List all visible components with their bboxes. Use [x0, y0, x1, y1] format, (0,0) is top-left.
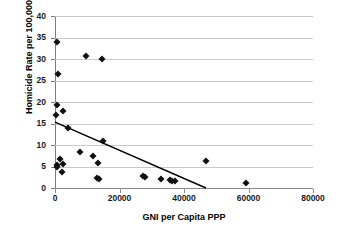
- y-tick-label-0: 0: [0, 184, 46, 193]
- y-tick-label-35: 35: [0, 33, 46, 42]
- plot-area: [55, 16, 313, 188]
- y-tick-label-40: 40: [0, 12, 46, 21]
- y-tick-label-20: 20: [0, 98, 46, 107]
- x-tick-label-60000: 60000: [219, 194, 279, 203]
- x-tick-mark-40000: [184, 189, 185, 193]
- x-axis-title: GNI per Capita PPP: [55, 212, 313, 222]
- x-tick-mark-60000: [249, 189, 250, 193]
- x-tick-label-0: 0: [25, 194, 85, 203]
- y-tick-label-30: 30: [0, 55, 46, 64]
- y-tick-label-15: 15: [0, 119, 46, 128]
- x-tick-mark-20000: [120, 189, 121, 193]
- y-tick-label-10: 10: [0, 141, 46, 150]
- gridline-y-0: [55, 188, 313, 189]
- x-tick-mark-80000: [313, 189, 314, 193]
- y-tick-label-25: 25: [0, 76, 46, 85]
- x-tick-label-40000: 40000: [154, 194, 214, 203]
- x-tick-label-20000: 20000: [90, 194, 150, 203]
- x-tick-mark-0: [55, 189, 56, 193]
- y-tick-label-5: 5: [0, 162, 46, 171]
- scatter-chart: Homicide Rate per 100,000 GNI per Capita…: [0, 0, 339, 232]
- y-axis-title: Homicide Rate per 100,000: [24, 0, 34, 137]
- x-tick-label-80000: 80000: [283, 194, 339, 203]
